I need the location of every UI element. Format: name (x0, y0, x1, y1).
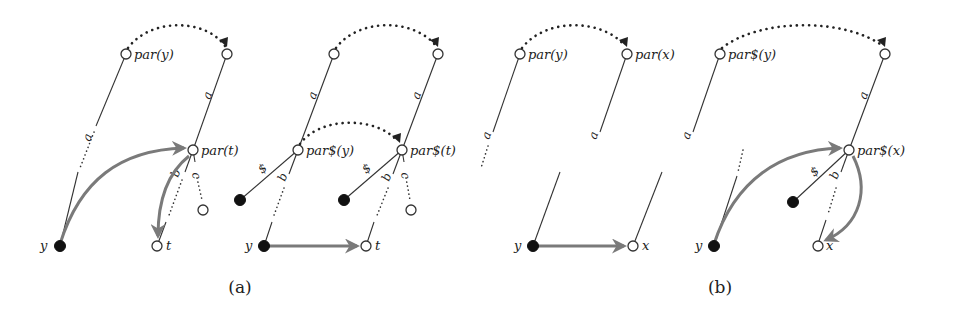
node-par-t (188, 145, 198, 155)
node-c-child (406, 205, 416, 215)
node-par-dollar-t (397, 145, 407, 155)
dotted-hop-arrow (128, 25, 225, 48)
dotted-path (481, 146, 488, 168)
edge-label-b: b (379, 171, 395, 183)
dotted-path (376, 188, 388, 218)
jump-arrow (826, 156, 861, 240)
edge-dollar (240, 150, 298, 200)
edge-label-a: a (409, 90, 425, 102)
edge-label-a: a (856, 90, 872, 102)
edge-a-right (849, 54, 885, 150)
node-y (259, 241, 270, 252)
dotted-path (273, 188, 284, 218)
label-par-y: par(y) (528, 47, 568, 62)
dotted-hop-arrow (722, 25, 883, 48)
edge-label-a: a (200, 90, 216, 102)
panel-b-right: a a $ b par$(y) par$(x) y x (679, 25, 905, 253)
dotted-path (738, 150, 743, 172)
dotted-path (406, 178, 410, 200)
dotted-path (197, 178, 202, 200)
node-dollar-child (788, 197, 799, 208)
edge-segment (633, 172, 662, 246)
dotted-hop-arrow (300, 123, 398, 144)
edge-label-c: c (398, 171, 413, 180)
edge-label-a: a (479, 130, 495, 142)
node-par-y (515, 49, 525, 59)
edge-label-a: a (305, 90, 321, 102)
node-par-dollar-y (715, 49, 725, 59)
edge-segment (533, 172, 560, 246)
node-par-dollar-y (293, 145, 303, 155)
jump-arrow (714, 148, 840, 244)
caption-a: (a) (228, 277, 251, 297)
edge-label-a: a (679, 130, 695, 142)
label-par-dollar-x: par$(x) (857, 143, 905, 158)
edge-a-left (298, 54, 334, 150)
node-dollar-child (339, 195, 350, 206)
label-t: t (375, 238, 381, 253)
node-ancestor (433, 49, 443, 59)
label-par-t: par(t) (201, 143, 239, 158)
edge-label-c: c (189, 171, 204, 180)
label-par-x: par(x) (635, 47, 675, 62)
label-t: t (166, 238, 172, 253)
node-par-x (622, 49, 632, 59)
label-y: y (39, 238, 48, 253)
node-c-child (198, 205, 208, 215)
node-dollar-child (235, 195, 246, 206)
label-x: x (826, 238, 834, 253)
edge-label-a: a (80, 132, 96, 144)
label-y: y (513, 238, 522, 253)
node-ancestor (222, 49, 232, 59)
node-par-dollar-x (844, 145, 854, 155)
edge-label-a: a (586, 130, 602, 142)
label-par-dollar-y: par$(y) (728, 47, 776, 62)
edge-a-left (693, 54, 720, 132)
node-t (361, 241, 371, 251)
jump-arrow (60, 148, 184, 244)
arrowhead-icon (877, 37, 886, 47)
edge-label-b: b (827, 169, 843, 181)
edge-a-left (493, 54, 520, 132)
node-ancestor (880, 49, 890, 59)
node-y (55, 241, 66, 252)
node-t (152, 241, 162, 251)
dotted-hop-arrow (336, 25, 436, 48)
panel-a-right: a a $ b $ b c pa (235, 25, 456, 253)
edge-a-right (600, 54, 627, 132)
jump-arrow (158, 156, 189, 236)
node-par-y (121, 49, 131, 59)
edge-label-dollar: $ (255, 161, 270, 177)
node-x (813, 241, 823, 251)
label-x: x (642, 238, 650, 253)
dotted-path (168, 180, 182, 218)
node-ancestor (329, 49, 339, 59)
node-x (628, 241, 638, 251)
panel-b-left: a a par(y) par(x) y x (479, 25, 675, 253)
node-y (709, 241, 720, 252)
edge-a-right (193, 54, 227, 150)
label-par-dollar-y: par$(y) (306, 143, 354, 158)
label-par-y: par(y) (134, 47, 174, 62)
caption-b: (b) (708, 277, 732, 297)
node-y (528, 241, 539, 252)
edge-label-b: b (275, 171, 291, 183)
edge-a-left (96, 54, 126, 126)
label-y: y (694, 238, 703, 253)
edge-a-right (402, 54, 438, 150)
edge-label-dollar: $ (359, 161, 374, 177)
dotted-path (828, 188, 836, 214)
dotted-hop-arrow (522, 25, 625, 48)
tree-diagram-figure: a a b c par(y) par(t) y t a (0, 0, 956, 316)
label-y: y (244, 238, 253, 253)
edge-segment (818, 220, 826, 244)
panel-a-left: a a b c par(y) par(t) y t (39, 25, 239, 253)
arrowhead-icon (430, 37, 439, 47)
label-par-dollar-t: par$(t) (410, 143, 456, 158)
